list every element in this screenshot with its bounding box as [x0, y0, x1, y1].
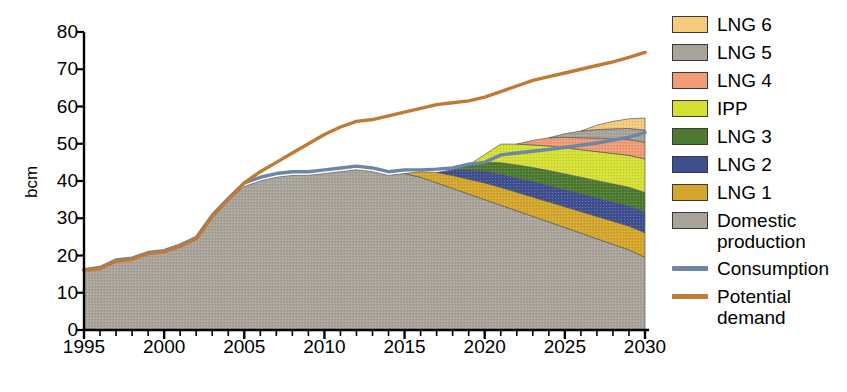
legend-item[interactable]: LNG 3 — [672, 126, 847, 147]
chart-legend: LNG 6LNG 5LNG 4IPPLNG 3LNG 2LNG 1Domesti… — [672, 14, 847, 334]
legend-color-swatch — [672, 156, 708, 173]
legend-line-swatch — [672, 288, 708, 305]
legend-item-label: LNG 3 — [717, 126, 772, 147]
legend-color-swatch — [672, 212, 708, 229]
legend-item[interactable]: LNG 1 — [672, 182, 847, 203]
x-tick-label: 2025 — [532, 336, 598, 358]
x-tick-label: 1995 — [51, 336, 117, 358]
x-tick-label: 2020 — [452, 336, 518, 358]
plot-area — [0, 0, 660, 392]
x-tick-label: 2015 — [372, 336, 438, 358]
legend-item[interactable]: LNG 6 — [672, 14, 847, 35]
legend-line-swatch — [672, 260, 708, 277]
legend-item-label: Consumption — [717, 258, 829, 279]
area-lng-6 — [581, 118, 645, 131]
x-tick-label: 2000 — [131, 336, 197, 358]
legend-item-label: LNG 6 — [717, 14, 772, 35]
legend-color-swatch — [672, 184, 708, 201]
legend-item-label: LNG 5 — [717, 42, 772, 63]
legend-color-swatch — [672, 128, 708, 145]
legend-color-swatch — [672, 72, 708, 89]
chart-root: bcm 80706050403020100 199520002005201020… — [0, 0, 847, 392]
chart-svg — [0, 0, 660, 392]
x-tick-label: 2010 — [291, 336, 357, 358]
legend-item[interactable]: LNG 4 — [672, 70, 847, 91]
x-tick-label: 2005 — [211, 336, 277, 358]
legend-item[interactable]: Domestic production — [672, 210, 847, 252]
legend-item-label: LNG 2 — [717, 154, 772, 175]
legend-item[interactable]: LNG 2 — [672, 154, 847, 175]
x-tick-label: 2030 — [612, 336, 678, 358]
legend-color-swatch — [672, 44, 708, 61]
legend-color-swatch — [672, 16, 708, 33]
legend-color-swatch — [672, 100, 708, 117]
legend-item-label: IPP — [717, 98, 748, 119]
legend-item[interactable]: IPP — [672, 98, 847, 119]
x-axis-tick-labels: 19952000200520102015202020252030 — [0, 336, 660, 366]
legend-item[interactable]: Consumption — [672, 258, 847, 279]
legend-item-label: Potential demand — [717, 286, 791, 328]
legend-item[interactable]: LNG 5 — [672, 42, 847, 63]
legend-item-label: LNG 4 — [717, 70, 772, 91]
legend-item-label: LNG 1 — [717, 182, 772, 203]
legend-item-label: Domestic production — [717, 210, 806, 252]
legend-item[interactable]: Potential demand — [672, 286, 847, 328]
